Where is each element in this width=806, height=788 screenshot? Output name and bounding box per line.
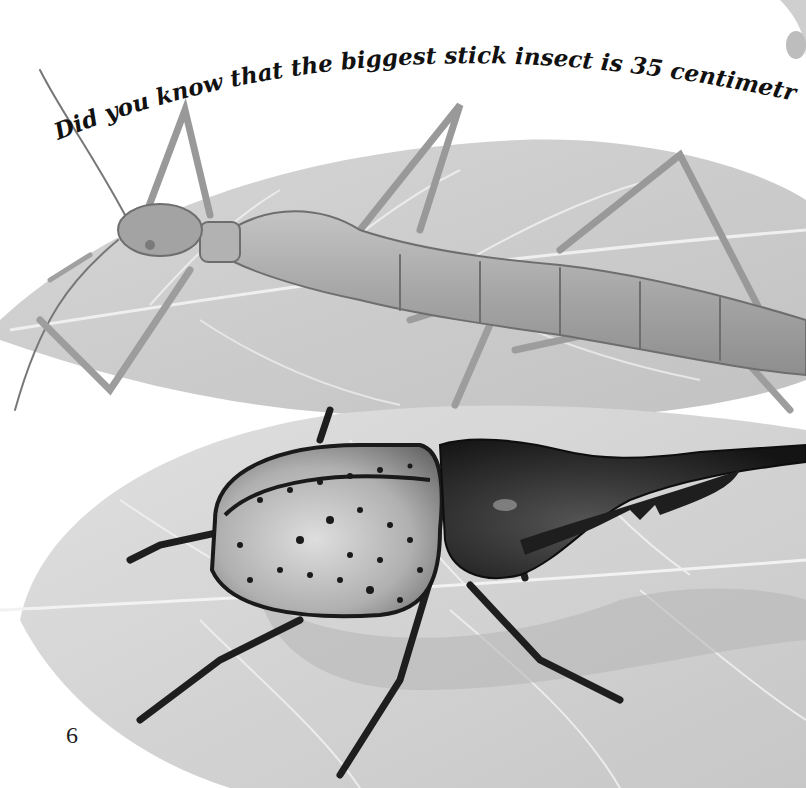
book-page: Did you know that the biggest stick inse…: [0, 0, 806, 788]
leaf-edge-shadow: [786, 31, 806, 59]
page-number: 6: [66, 722, 78, 749]
caption: Did you know that the biggest stick inse…: [0, 0, 801, 145]
insect-illustration: Did you know that the biggest stick inse…: [0, 0, 806, 788]
